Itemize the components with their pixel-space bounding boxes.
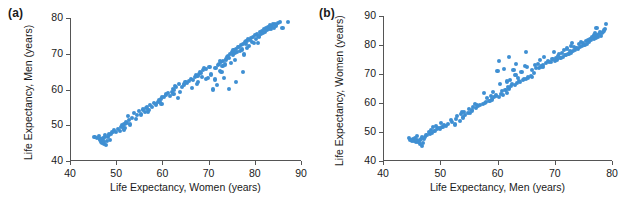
data-point (494, 93, 498, 97)
data-point (541, 65, 545, 69)
data-point (256, 41, 260, 45)
data-point (229, 61, 233, 65)
x-tick-mark (162, 161, 163, 165)
x-tick-label: 50 (100, 167, 132, 179)
data-point (489, 94, 493, 98)
data-point (213, 77, 217, 81)
panel-a-y-axis-label: Life Expectancy, Men (years) (22, 25, 34, 160)
y-tick-label: 80 (38, 11, 63, 23)
data-point (190, 86, 194, 90)
y-tick-label: 60 (38, 83, 63, 95)
data-point (171, 92, 175, 96)
data-point (247, 44, 251, 48)
data-point (458, 119, 462, 123)
x-tick-mark (116, 161, 117, 165)
data-point (594, 26, 598, 30)
panel-b-scatter-area (383, 16, 612, 161)
y-tick-mark (379, 103, 383, 104)
y-tick-label: 40 (351, 154, 376, 166)
data-point (497, 59, 501, 63)
data-point (421, 141, 425, 145)
data-point (222, 76, 226, 80)
data-point (482, 91, 486, 95)
x-tick-mark (70, 161, 71, 165)
data-point (178, 90, 182, 94)
data-point (522, 77, 526, 81)
data-point (174, 85, 178, 89)
x-tick-mark (440, 161, 441, 165)
data-point (530, 68, 534, 72)
y-tick-mark (379, 161, 383, 162)
data-point (507, 55, 511, 59)
data-point (495, 69, 499, 73)
y-tick-mark (379, 132, 383, 133)
x-tick-mark (612, 161, 613, 165)
data-point (242, 52, 246, 56)
data-point (519, 70, 523, 74)
data-point (434, 124, 438, 128)
panel-b-x-axis-label: Life Expectancy, Men (years) (383, 181, 612, 193)
life-expectancy-figure: (a) Life Expectancy, Men (years) 4050607… (0, 0, 622, 199)
x-tick-label: 80 (596, 167, 622, 179)
x-tick-label: 40 (54, 167, 86, 179)
y-tick-label: 70 (351, 67, 376, 79)
x-tick-label: 60 (146, 167, 178, 179)
data-point (219, 70, 223, 74)
x-tick-label: 40 (367, 167, 399, 179)
data-point (603, 27, 607, 31)
data-point (134, 117, 138, 121)
data-point (209, 72, 213, 76)
data-point (227, 87, 231, 91)
data-point (234, 80, 238, 84)
data-point (505, 91, 509, 95)
y-tick-label: 70 (38, 47, 63, 59)
x-tick-label: 70 (539, 167, 571, 179)
x-tick-label: 60 (482, 167, 514, 179)
y-tick-mark (66, 18, 70, 19)
y-tick-mark (66, 125, 70, 126)
y-tick-label: 50 (351, 125, 376, 137)
y-tick-label: 40 (38, 154, 63, 166)
y-tick-mark (66, 90, 70, 91)
panel-b: (b) Life Expectancy, Women (years) 40506… (311, 0, 622, 199)
panel-a-label: (a) (8, 6, 23, 20)
data-point (491, 90, 495, 94)
y-tick-mark (379, 45, 383, 46)
data-point (211, 87, 215, 91)
data-point (473, 102, 477, 106)
x-tick-mark (209, 161, 210, 165)
data-point (552, 50, 556, 54)
data-point (176, 96, 180, 100)
y-tick-label: 90 (351, 9, 376, 21)
data-point (524, 50, 528, 54)
x-tick-mark (555, 161, 556, 165)
data-point (280, 26, 284, 30)
data-point (514, 62, 518, 66)
data-point (560, 51, 564, 55)
data-point (128, 122, 132, 126)
y-tick-label: 50 (38, 118, 63, 130)
data-point (286, 20, 290, 24)
data-point (532, 71, 536, 75)
x-tick-mark (498, 161, 499, 165)
data-point (227, 56, 231, 60)
x-tick-mark (301, 161, 302, 165)
data-point (159, 102, 163, 106)
data-point (196, 80, 200, 84)
data-point (604, 22, 608, 26)
data-point (204, 77, 208, 81)
panel-a: (a) Life Expectancy, Men (years) 4050607… (0, 0, 311, 199)
data-point (241, 70, 245, 74)
data-point (449, 118, 453, 122)
x-tick-label: 70 (193, 167, 225, 179)
y-tick-mark (379, 16, 383, 17)
data-point (213, 66, 217, 70)
panel-b-y-axis-label: Life Expectancy, Women (years) (333, 15, 345, 166)
data-point (278, 20, 282, 24)
data-point (123, 126, 127, 130)
data-point (177, 82, 181, 86)
panel-a-scatter-area (70, 18, 301, 161)
data-point (538, 58, 542, 62)
x-tick-mark (255, 161, 256, 165)
data-point (511, 68, 515, 72)
